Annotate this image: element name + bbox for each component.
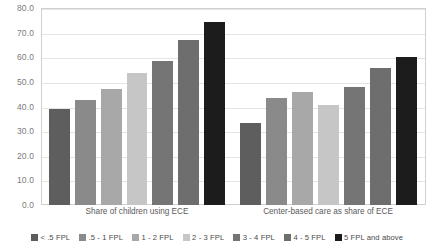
bars-layer bbox=[41, 8, 426, 205]
y-axis-tick-label: 50.0 bbox=[17, 77, 34, 87]
bar bbox=[240, 123, 261, 205]
legend-item[interactable]: .5 - 1 FPL bbox=[79, 233, 123, 242]
chart-legend: < .5 FPL.5 - 1 FPL1 - 2 FPL2 - 3 FPL3 - … bbox=[0, 229, 434, 245]
category-label: Share of children using ECE bbox=[47, 207, 227, 216]
legend-swatch-icon bbox=[284, 234, 291, 241]
legend-label: .5 - 1 FPL bbox=[89, 233, 123, 242]
bar-group bbox=[237, 8, 419, 205]
category-labels: Share of children using ECE Center-based… bbox=[41, 207, 426, 223]
bar bbox=[318, 105, 339, 205]
bar bbox=[266, 98, 287, 205]
bar-group bbox=[47, 8, 227, 205]
bar bbox=[370, 68, 391, 205]
legend-label: 5 FPL and above bbox=[344, 233, 403, 242]
bar bbox=[75, 100, 96, 205]
bar bbox=[49, 109, 70, 205]
legend-label: 2 - 3 FPL bbox=[192, 233, 224, 242]
y-axis-tick-label: 80.0 bbox=[17, 3, 34, 13]
bar bbox=[178, 40, 199, 205]
bar bbox=[344, 87, 365, 205]
legend-item[interactable]: 5 FPL and above bbox=[335, 233, 404, 242]
legend-swatch-icon bbox=[233, 234, 240, 241]
legend-label: 1 - 2 FPL bbox=[141, 233, 173, 242]
y-axis-tick-label: 10.0 bbox=[17, 175, 34, 185]
legend-swatch-icon bbox=[132, 234, 139, 241]
legend-swatch-icon bbox=[79, 234, 86, 241]
category-label: Center-based care as share of ECE bbox=[237, 207, 419, 216]
y-axis-tick-label: 0.0 bbox=[22, 200, 34, 210]
legend-swatch-icon bbox=[335, 234, 342, 241]
bar bbox=[204, 22, 225, 205]
y-axis-tick-label: 40.0 bbox=[17, 102, 34, 112]
y-axis-tick-label: 20.0 bbox=[17, 151, 34, 161]
bar bbox=[127, 73, 148, 205]
y-axis-tick-label: 30.0 bbox=[17, 126, 34, 136]
legend-label: < .5 FPL bbox=[40, 233, 70, 242]
legend-label: 4 - 5 FPL bbox=[293, 233, 325, 242]
legend-label: 3 - 4 FPL bbox=[243, 233, 275, 242]
legend-item[interactable]: 3 - 4 FPL bbox=[233, 233, 275, 242]
legend-item[interactable]: 4 - 5 FPL bbox=[284, 233, 326, 242]
legend-item[interactable]: 2 - 3 FPL bbox=[183, 233, 225, 242]
legend-item[interactable]: < .5 FPL bbox=[31, 233, 70, 242]
bar bbox=[152, 61, 173, 205]
y-axis-labels: 80.070.060.050.040.030.020.010.00.0 bbox=[0, 8, 38, 205]
bar bbox=[292, 92, 313, 205]
legend-item[interactable]: 1 - 2 FPL bbox=[132, 233, 174, 242]
y-axis-tick-label: 70.0 bbox=[17, 28, 34, 38]
y-axis-tick-label: 60.0 bbox=[17, 52, 34, 62]
bar-chart: 80.070.060.050.040.030.020.010.00.0 Shar… bbox=[0, 0, 434, 247]
bar bbox=[396, 57, 417, 205]
bar bbox=[101, 89, 122, 205]
legend-swatch-icon bbox=[31, 234, 38, 241]
legend-swatch-icon bbox=[183, 234, 190, 241]
